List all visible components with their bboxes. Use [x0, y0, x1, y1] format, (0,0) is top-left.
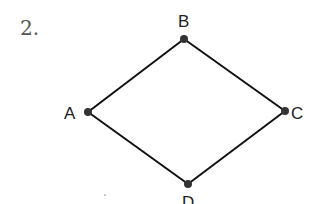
- edge-da: [88, 112, 188, 184]
- diagram-canvas: 2. A B C D: [0, 0, 313, 204]
- vertex-points: [84, 35, 289, 188]
- vertex-point-c: [281, 107, 289, 115]
- vertex-point-a: [84, 108, 92, 116]
- stray-mark: [104, 194, 106, 196]
- edge-cd: [188, 111, 285, 184]
- vertex-label-d: D: [182, 193, 194, 204]
- vertex-point-b: [180, 35, 188, 43]
- quadrilateral-edges: [88, 39, 285, 184]
- vertex-label-a: A: [64, 104, 76, 123]
- vertex-label-b: B: [178, 12, 189, 31]
- problem-number: 2.: [20, 16, 39, 40]
- vertex-point-d: [184, 180, 192, 188]
- edge-bc: [184, 39, 285, 111]
- edge-ab: [88, 39, 184, 112]
- vertex-label-c: C: [291, 104, 303, 123]
